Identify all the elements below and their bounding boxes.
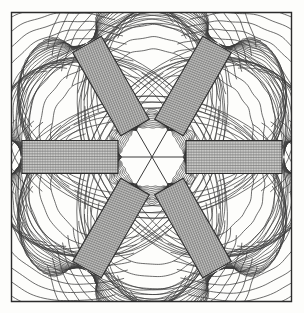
magnetic-flux-line-plot (0, 0, 304, 313)
flux-plot-figure: Magnetic flux line plot of a six-pole (h… (0, 0, 304, 313)
